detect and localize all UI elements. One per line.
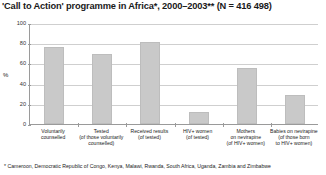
- x-axis-tick: [175, 123, 176, 127]
- bar: [140, 42, 160, 124]
- chart-figure: 'Call to Action' programme in Africa*, 2…: [0, 0, 326, 175]
- x-axis-tick: [126, 123, 127, 127]
- bar: [285, 95, 305, 124]
- y-axis-tick-label: 100: [17, 21, 26, 27]
- footnote: * Cameroon, Democratic Republic of Congo…: [4, 163, 271, 169]
- y-axis-title: %: [3, 72, 8, 78]
- bar: [92, 54, 112, 124]
- x-axis-tick-label: HIV+ women(of tested): [174, 128, 222, 140]
- x-axis-tick-label: Motherson nevirapine(of HIV+ women): [222, 128, 270, 147]
- x-axis-tick-label: Babies on nevirapine(of those bornto HIV…: [270, 128, 318, 147]
- y-axis-tick-labels: 020406080100: [0, 0, 29, 135]
- y-axis-tick-label: 80: [20, 41, 26, 47]
- x-axis-tick-label: Voluntarilycounselled: [29, 128, 77, 140]
- x-axis-tick-label-line: counselled): [77, 140, 125, 146]
- x-axis-tick-label-line: counselled: [29, 134, 77, 140]
- x-axis-tick: [271, 123, 272, 127]
- x-axis-tick-label-line: (of tested): [125, 134, 173, 140]
- x-axis-tick-label: Tested(of those voluntarilycounselled): [77, 128, 125, 147]
- x-axis-tick-label-line: (of tested): [174, 134, 222, 140]
- y-axis-tick: [28, 125, 31, 126]
- y-axis-tick-label: 0: [23, 122, 26, 128]
- y-axis-tick-label: 40: [20, 82, 26, 88]
- y-axis-tick-label: 20: [20, 102, 26, 108]
- x-axis-tick-labels: VoluntarilycounselledTested(of those vol…: [29, 128, 318, 158]
- x-axis-tick: [223, 123, 224, 127]
- x-axis-tick-label: Received results(of tested): [125, 128, 173, 140]
- x-axis-tick-label-line: (of HIV+ women): [222, 140, 270, 146]
- bar: [237, 68, 257, 124]
- bar-series: [30, 24, 318, 124]
- chart-title: 'Call to Action' programme in Africa*, 2…: [2, 1, 324, 11]
- y-axis-tick-label: 60: [20, 62, 26, 68]
- bar: [189, 112, 209, 124]
- x-axis-tick: [78, 123, 79, 127]
- plot-area: [29, 24, 318, 125]
- x-axis-tick-label-line: to HIV+ women): [270, 140, 318, 146]
- bar: [44, 47, 64, 124]
